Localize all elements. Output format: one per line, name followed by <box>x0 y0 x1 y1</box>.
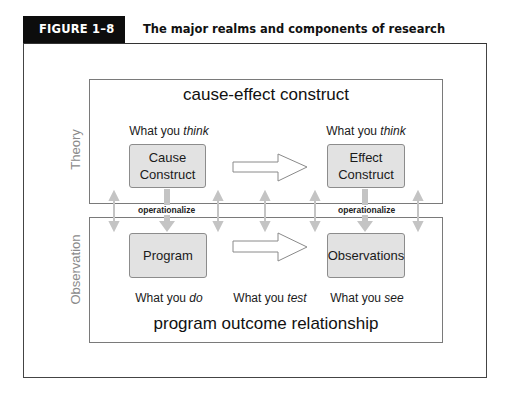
test-caption: What you test <box>223 291 317 305</box>
effect-construct-box: Effect Construct <box>327 144 405 188</box>
program-caption: What you do <box>124 291 214 305</box>
operationalize-label-left: operationalize <box>137 205 196 215</box>
operationalize-label-right: operationalize <box>337 205 396 215</box>
observations-box: Observations <box>327 233 405 278</box>
connector-arrows <box>0 0 506 397</box>
program-box: Program <box>129 233 207 278</box>
observations-caption: What you see <box>322 291 412 305</box>
right-arrow-icons <box>233 154 307 261</box>
cause-construct-box: Cause Construct <box>129 144 206 188</box>
